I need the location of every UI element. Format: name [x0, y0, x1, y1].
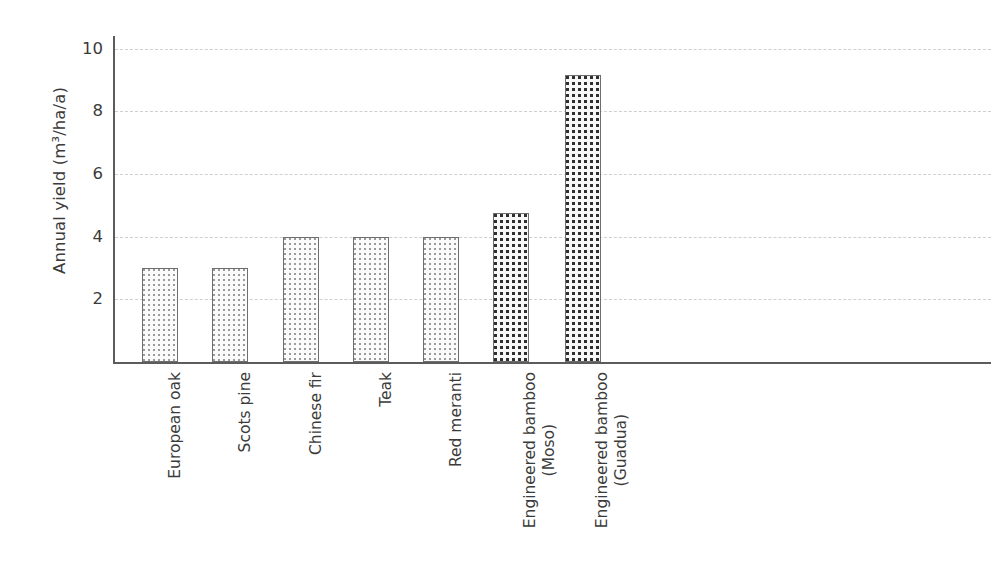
- x-tick-label-line: Chinese fir: [307, 372, 326, 455]
- x-tick-label-line: (Guadua): [612, 372, 631, 528]
- bar-3: [283, 237, 319, 362]
- bar-6: [493, 213, 529, 362]
- gridline-10: [115, 49, 991, 50]
- x-tick-label-line: Engineered bamboo: [521, 372, 540, 528]
- y-axis-line: [113, 36, 115, 363]
- x-tick-label-5: Red meranti: [447, 372, 466, 467]
- y-tick-label-8: 8: [65, 103, 103, 120]
- x-axis-line: [113, 362, 991, 364]
- y-tick-label-10: 10: [65, 40, 103, 57]
- y-tick-label-6: 6: [65, 166, 103, 183]
- bar-4: [353, 237, 389, 362]
- x-tick-label-line: Red meranti: [447, 372, 466, 467]
- x-tick-label-6: Engineered bamboo(Moso): [521, 372, 559, 528]
- gridline-8: [115, 111, 991, 112]
- bar-1: [142, 268, 178, 362]
- x-tick-label-1: European oak: [166, 372, 185, 479]
- bar-7: [565, 75, 601, 362]
- x-tick-label-line: (Moso): [540, 372, 559, 528]
- gridline-4: [115, 237, 991, 238]
- plot-area: 246810: [113, 36, 991, 363]
- y-tick-label-2: 2: [65, 291, 103, 308]
- gridline-6: [115, 174, 991, 175]
- bar-chart-figure: Annual yield (m³/ha/a) 246810 European o…: [0, 0, 1008, 574]
- x-tick-label-line: European oak: [166, 372, 185, 479]
- x-axis-tick-labels: European oakScots pineChinese firTeakRed…: [113, 366, 991, 572]
- y-tick-label-4: 4: [65, 228, 103, 245]
- x-tick-label-4: Teak: [377, 372, 396, 407]
- x-tick-label-line: Engineered bamboo: [593, 372, 612, 528]
- bar-2: [212, 268, 248, 362]
- x-tick-label-line: Teak: [377, 372, 396, 407]
- x-tick-label-line: Scots pine: [236, 372, 255, 452]
- x-tick-label-7: Engineered bamboo(Guadua): [593, 372, 631, 528]
- x-tick-label-3: Chinese fir: [307, 372, 326, 455]
- x-tick-label-2: Scots pine: [236, 372, 255, 452]
- bar-5: [423, 237, 459, 362]
